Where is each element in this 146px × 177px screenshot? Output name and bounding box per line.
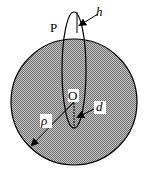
label-p: P xyxy=(50,20,57,35)
label-height: h xyxy=(96,4,103,19)
label-radius: ρ xyxy=(40,113,47,128)
label-origin: O xyxy=(68,88,77,103)
sphere-diagram: P O h d ρ xyxy=(0,0,146,177)
label-distance: d xyxy=(96,99,103,114)
